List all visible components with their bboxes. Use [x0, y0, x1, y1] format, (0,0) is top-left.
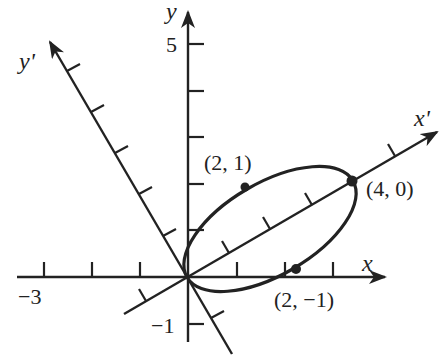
point-label-4-0: (4, 0)	[366, 176, 414, 201]
x-axis-label: x	[361, 250, 373, 276]
diagram-canvas: x y x' y' 5 −1 −3 (2, 1) (4, 0) (2, −1)	[0, 0, 442, 356]
point-label-2-neg1: (2, −1)	[274, 287, 334, 312]
point-label-2-1: (2, 1)	[204, 150, 252, 175]
y-prime-axis	[50, 42, 232, 354]
marked-points	[241, 176, 358, 275]
y-prime-axis-label: y'	[17, 48, 36, 74]
y-prime-axis-ticks	[67, 64, 224, 318]
x-tick-label-neg3: −3	[18, 284, 41, 309]
x-prime-axis-label: x'	[413, 105, 431, 131]
point-4-0	[347, 176, 358, 187]
y-tick-label-neg1: −1	[151, 313, 174, 338]
point-2-neg1	[291, 264, 301, 274]
point-2-1	[241, 183, 250, 192]
y-axis-label: y	[164, 0, 177, 24]
rotated-axes-ellipse-diagram: x y x' y' 5 −1 −3 (2, 1) (4, 0) (2, −1)	[0, 0, 442, 356]
y-tick-label-5: 5	[166, 32, 177, 57]
